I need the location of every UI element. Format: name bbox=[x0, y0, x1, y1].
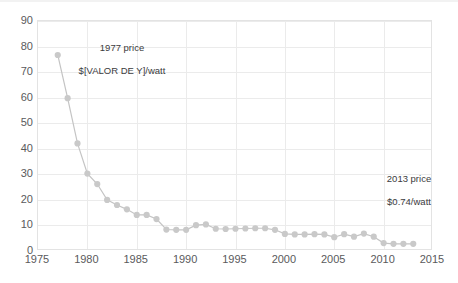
data-point bbox=[321, 231, 327, 237]
data-point bbox=[134, 212, 140, 218]
data-point bbox=[153, 216, 159, 222]
data-point bbox=[193, 222, 199, 228]
data-point bbox=[410, 241, 416, 247]
data-point bbox=[232, 226, 238, 232]
data-point bbox=[331, 234, 337, 240]
data-point bbox=[114, 202, 120, 208]
annotation-2013-line2: $0.74/watt bbox=[366, 196, 452, 208]
top-border bbox=[0, 0, 458, 2]
data-point bbox=[144, 212, 150, 218]
data-point bbox=[381, 240, 387, 246]
y-axis-tick-label: 70 bbox=[0, 66, 33, 76]
data-point bbox=[65, 95, 71, 101]
data-point bbox=[124, 206, 130, 212]
data-point bbox=[351, 234, 357, 240]
annotation-1977-line1: 1977 price bbox=[78, 42, 166, 54]
data-point bbox=[302, 231, 308, 237]
data-point bbox=[311, 231, 317, 237]
data-point bbox=[242, 225, 248, 231]
annotation-2013-price: 2013 price $0.74/watt bbox=[366, 161, 452, 219]
data-point bbox=[292, 231, 298, 237]
data-point bbox=[173, 227, 179, 233]
data-point bbox=[163, 226, 169, 232]
y-axis-tick-label: 40 bbox=[0, 143, 33, 153]
data-point bbox=[400, 241, 406, 247]
data-point bbox=[213, 226, 219, 232]
annotation-1977-price: 1977 price $[VALOR DE Y]/watt bbox=[78, 30, 166, 88]
y-axis-tick-label: 50 bbox=[0, 117, 33, 127]
data-point bbox=[55, 52, 61, 58]
y-axis-tick-label: 30 bbox=[0, 168, 33, 178]
y-axis-tick-label: 80 bbox=[0, 41, 33, 51]
data-point bbox=[371, 234, 377, 240]
data-point bbox=[94, 181, 100, 187]
data-point bbox=[203, 221, 209, 227]
data-point bbox=[84, 170, 90, 176]
data-point bbox=[361, 231, 367, 237]
data-point bbox=[104, 197, 110, 203]
annotation-2013-line1: 2013 price bbox=[366, 173, 452, 185]
x-axis-tick-label: 2015 bbox=[402, 253, 458, 265]
data-point bbox=[252, 225, 258, 231]
data-point bbox=[390, 241, 396, 247]
y-axis-tick-label: 10 bbox=[0, 219, 33, 229]
annotation-1977-line2: $[VALOR DE Y]/watt bbox=[78, 65, 166, 77]
data-point bbox=[183, 227, 189, 233]
data-point bbox=[74, 140, 80, 146]
data-point bbox=[223, 226, 229, 232]
data-point bbox=[341, 231, 347, 237]
y-axis-tick-label: 90 bbox=[0, 15, 33, 25]
y-axis-tick-label: 20 bbox=[0, 194, 33, 204]
chart-container: 0102030405060708090 19751980198519901995… bbox=[0, 0, 458, 283]
data-point bbox=[282, 231, 288, 237]
data-point bbox=[272, 227, 278, 233]
data-point bbox=[262, 225, 268, 231]
y-axis-tick-label: 60 bbox=[0, 92, 33, 102]
